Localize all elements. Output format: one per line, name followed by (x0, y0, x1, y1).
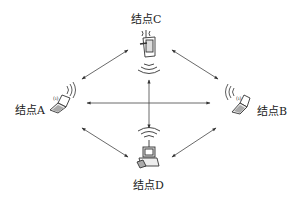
node-c-label: 结点C (131, 14, 161, 26)
pda-icon (140, 30, 155, 57)
svg-text:(ı): (ı) (236, 95, 242, 101)
signal-waves-d-icon (138, 128, 160, 138)
edge-a-d (82, 128, 128, 157)
signal-waves-c-icon (138, 64, 160, 74)
node-a-label: 结点A (15, 105, 45, 117)
svg-text:(ı): (ı) (53, 95, 59, 101)
edge-d-b (172, 128, 216, 157)
desktop-icon (137, 140, 159, 168)
diagram-canvas: (ı) (ı) (0, 0, 296, 206)
edge-c-b (172, 50, 218, 79)
network-diagram: (ı) (ı) 结点C (0, 0, 296, 206)
node-b-label: 结点B (257, 106, 287, 118)
edge-a-c (82, 50, 128, 79)
node-d-label: 结点D (133, 180, 164, 192)
signal-waves-b-icon: (ı) (226, 84, 242, 101)
